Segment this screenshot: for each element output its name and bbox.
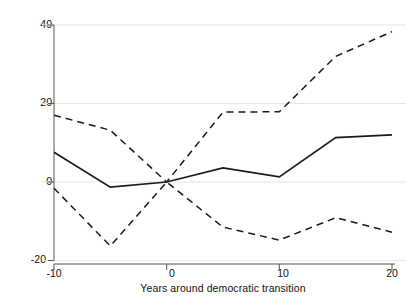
- chart-container: Percent change of tax revenue as a perce…: [0, 0, 408, 305]
- plot-area: [0, 0, 408, 305]
- axis-spines: [54, 25, 395, 264]
- series-lower-bound: [54, 182, 392, 246]
- axis-ticks: [48, 25, 392, 270]
- gridlines: [42, 25, 406, 261]
- series-upper-bound: [54, 32, 392, 182]
- series-point-estimate: [54, 135, 392, 187]
